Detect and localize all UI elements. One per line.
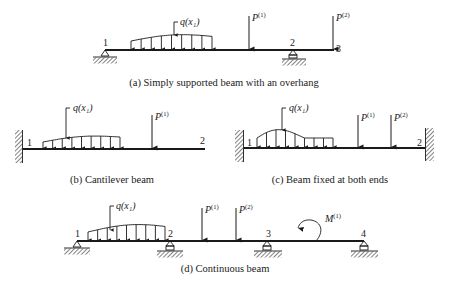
figure-a-simply-supported-overhang: q(x₁) P(1) P(2) 1 2 3 (a) Simply support… (93, 11, 350, 89)
distributed-load-label: q(x₁) (289, 102, 309, 114)
point-load-label: P(1) (360, 111, 375, 123)
distributed-load-label: q(x₁) (116, 200, 136, 212)
figure-d-continuous: q(x₁) P(1) P(2) M(1) 1 2 3 4 (d) Continu… (64, 200, 378, 275)
beam-diagrams: q(x₁) P(1) P(2) 1 2 3 (a) Simply support… (0, 0, 449, 287)
distributed-load-label: q(x₁) (73, 102, 93, 114)
distributed-load (131, 35, 212, 49)
fixed-wall-support-right (426, 128, 435, 161)
point-load-label: P(1) (251, 11, 266, 23)
node-label: 2 (168, 228, 173, 239)
node-label: 1 (27, 137, 32, 148)
node-label: 2 (290, 37, 295, 48)
roller-support (157, 241, 183, 258)
roller-support (254, 241, 282, 258)
point-load-label: P(2) (335, 11, 350, 23)
roller-support (351, 241, 378, 258)
caption: (c) Beam fixed at both ends (272, 174, 388, 186)
node-label: 1 (75, 228, 80, 239)
caption: (a) Simply supported beam with an overha… (129, 77, 319, 89)
distributed-load-label: q(x₁) (180, 16, 200, 28)
moment-arrow (298, 220, 321, 241)
distributed-load (257, 130, 333, 147)
roller-support (282, 50, 306, 66)
figure-c-fixed-both-ends: q(x₁) P(1) P(2) 1 2 (c) Beam fixed at bo… (235, 102, 434, 186)
pin-support (93, 50, 117, 64)
node-label: 1 (103, 37, 108, 48)
figure-b-cantilever: q(x₁) P(1) 1 2 (b) Cantilever beam (15, 102, 205, 186)
node-label: 3 (266, 228, 271, 239)
caption: (d) Continuous beam (181, 263, 270, 275)
distributed-load (88, 225, 165, 240)
distributed-load-pointer (282, 108, 286, 130)
point-load-label: P(2) (393, 111, 408, 123)
moment-label: M(1) (324, 212, 341, 224)
point-load-label: P(1) (204, 203, 219, 215)
caption: (b) Cantilever beam (70, 174, 154, 186)
node-label: 2 (200, 135, 205, 146)
node-label: 2 (417, 137, 422, 148)
point-load-label: P(2) (238, 203, 253, 215)
fixed-wall-support-left (235, 130, 244, 162)
distributed-load-pointer (66, 108, 70, 138)
node-label: 3 (336, 43, 341, 54)
fixed-wall-support (15, 130, 23, 163)
distributed-load (43, 136, 120, 148)
distributed-load-pointer (174, 22, 178, 35)
node-label: 1 (247, 137, 252, 148)
pin-support (64, 241, 90, 255)
node-label: 4 (361, 228, 366, 239)
point-load-label: P(1) (154, 110, 169, 122)
